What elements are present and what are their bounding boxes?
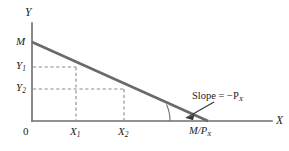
y2-label-sub: 2	[22, 86, 26, 95]
budget-line-figure: Y X 0 M Y1 Y2 X1 X2 M/PX Slope = −PX	[0, 0, 289, 151]
x2-label-base: X	[118, 125, 125, 137]
budget-line	[32, 42, 208, 121]
origin-label: 0	[23, 126, 29, 137]
horizontal-intercept-sub: X	[207, 130, 211, 138]
slope-leader-line	[186, 102, 214, 118]
y1-label: Y1	[16, 60, 26, 72]
x2-label-sub: 2	[125, 130, 129, 139]
y1-label-sub: 1	[22, 64, 26, 73]
x2-label: X2	[118, 126, 128, 138]
horizontal-intercept-label: M/PX	[189, 126, 211, 138]
slope-annotation-text: Slope = −P	[192, 90, 239, 101]
x1-label-sub: 1	[77, 130, 81, 139]
y-axis-label: Y	[25, 7, 31, 19]
angle-arc	[167, 105, 171, 122]
vertical-intercept-label: M	[16, 36, 25, 47]
horizontal-intercept-base: M/P	[189, 125, 207, 136]
figure-canvas	[0, 0, 289, 151]
slope-annotation: Slope = −PX	[192, 91, 243, 103]
x-axis-label: X	[276, 115, 283, 127]
x1-label: X1	[70, 126, 80, 138]
slope-annotation-sub: X	[239, 95, 243, 103]
x1-label-base: X	[70, 125, 77, 137]
y2-label: Y2	[16, 82, 26, 94]
